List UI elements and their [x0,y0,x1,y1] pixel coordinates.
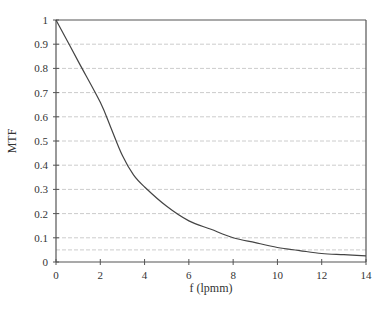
x-tick-label: 2 [98,269,104,281]
y-tick-label: 1 [43,14,49,26]
x-tick-label: 14 [361,269,373,281]
y-tick-label: 0.7 [34,87,48,99]
x-tick-label: 8 [230,269,236,281]
y-tick-label: 0.6 [34,111,48,123]
x-axis-title: f (lpmm) [190,281,233,295]
y-axis-title: MTF [5,128,19,153]
y-tick-label: 0.5 [34,135,48,147]
y-tick-label: 0.9 [34,38,48,50]
y-tick-label: 0.1 [34,232,48,244]
x-tick-label: 6 [186,269,192,281]
y-tick-label: 0.2 [34,208,48,220]
y-tick-label: 0.8 [34,62,48,74]
x-tick-label: 0 [53,269,59,281]
mtf-curve [56,20,366,256]
y-tick-label: 0 [43,256,49,268]
x-tick-label: 12 [316,269,327,281]
gridlines [56,44,366,250]
tick-labels: 00.10.20.30.40.50.60.70.80.9102468101214 [34,14,372,281]
x-tick-label: 4 [142,269,148,281]
mtf-chart: 00.10.20.30.40.50.60.70.80.9102468101214… [0,0,387,309]
y-tick-label: 0.3 [34,183,48,195]
y-tick-label: 0.4 [34,159,48,171]
x-tick-label: 10 [272,269,284,281]
